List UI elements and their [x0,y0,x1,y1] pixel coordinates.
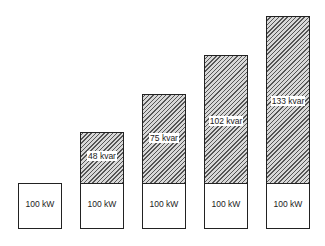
kvar-label: 75 kvar [143,133,185,143]
kw-segment: 100 kW [18,183,62,229]
kw-label: 100 kW [19,199,61,209]
kvar-segment: 133 kvar [266,16,310,183]
kvar-label: 102 kvar [205,116,247,126]
kw-segment: 100 kW [204,183,248,229]
kw-label: 100 kW [81,199,123,209]
kw-label: 100 kW [143,199,185,209]
kw-segment: 100 kW [266,183,310,229]
kvar-segment: 48 kvar [80,132,124,183]
kvar-label: 48 kvar [81,151,123,161]
kvar-segment: 75 kvar [142,94,186,183]
kw-segment: 100 kW [142,183,186,229]
kw-label: 100 kW [205,199,247,209]
kvar-segment: 102 kvar [204,55,248,183]
kw-segment: 100 kW [80,183,124,229]
kw-label: 100 kW [267,199,309,209]
kvar-label: 133 kvar [267,96,309,106]
